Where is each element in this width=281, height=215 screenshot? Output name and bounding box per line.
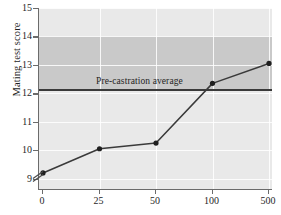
x-tick-mark-0 [42, 190, 43, 194]
y-tick-label-14: 14 [0, 30, 32, 41]
x-tick-mark-50 [155, 190, 156, 194]
y-tick-label-9: 9 [0, 173, 32, 184]
data-point-500 [266, 61, 271, 66]
y-tick-mark-14 [33, 36, 38, 37]
x-tick-mark-500 [268, 190, 269, 194]
y-tick-label-15: 15 [0, 2, 32, 13]
y-tick-mark-15 [33, 8, 38, 9]
y-tick-mark-13 [33, 65, 38, 66]
data-series-line [39, 8, 272, 190]
x-tick-label-25: 25 [79, 195, 119, 206]
y-tick-mark-12 [33, 93, 38, 94]
x-tick-mark-25 [99, 190, 100, 194]
data-point-50 [153, 140, 158, 145]
axis-break-icon [30, 166, 46, 184]
y-tick-mark-10 [33, 150, 38, 151]
y-tick-mark-11 [33, 122, 38, 123]
chart-container: Mating test score Pre-castration average… [0, 0, 281, 215]
pre-castration-average-label: Pre-castration average [96, 76, 183, 86]
x-tick-label-0: 0 [22, 195, 62, 206]
x-tick-mark-100 [212, 190, 213, 194]
y-tick-label-11: 11 [0, 116, 32, 127]
y-tick-label-13: 13 [0, 59, 32, 70]
plot-area [38, 8, 272, 190]
x-tick-label-500: 500 [248, 195, 281, 206]
x-tick-label-100: 100 [192, 195, 232, 206]
y-tick-label-10: 10 [0, 144, 32, 155]
y-tick-label-12: 12 [0, 87, 32, 98]
data-point-25 [97, 146, 102, 151]
x-tick-label-50: 50 [135, 195, 175, 206]
data-point-100 [210, 81, 215, 86]
